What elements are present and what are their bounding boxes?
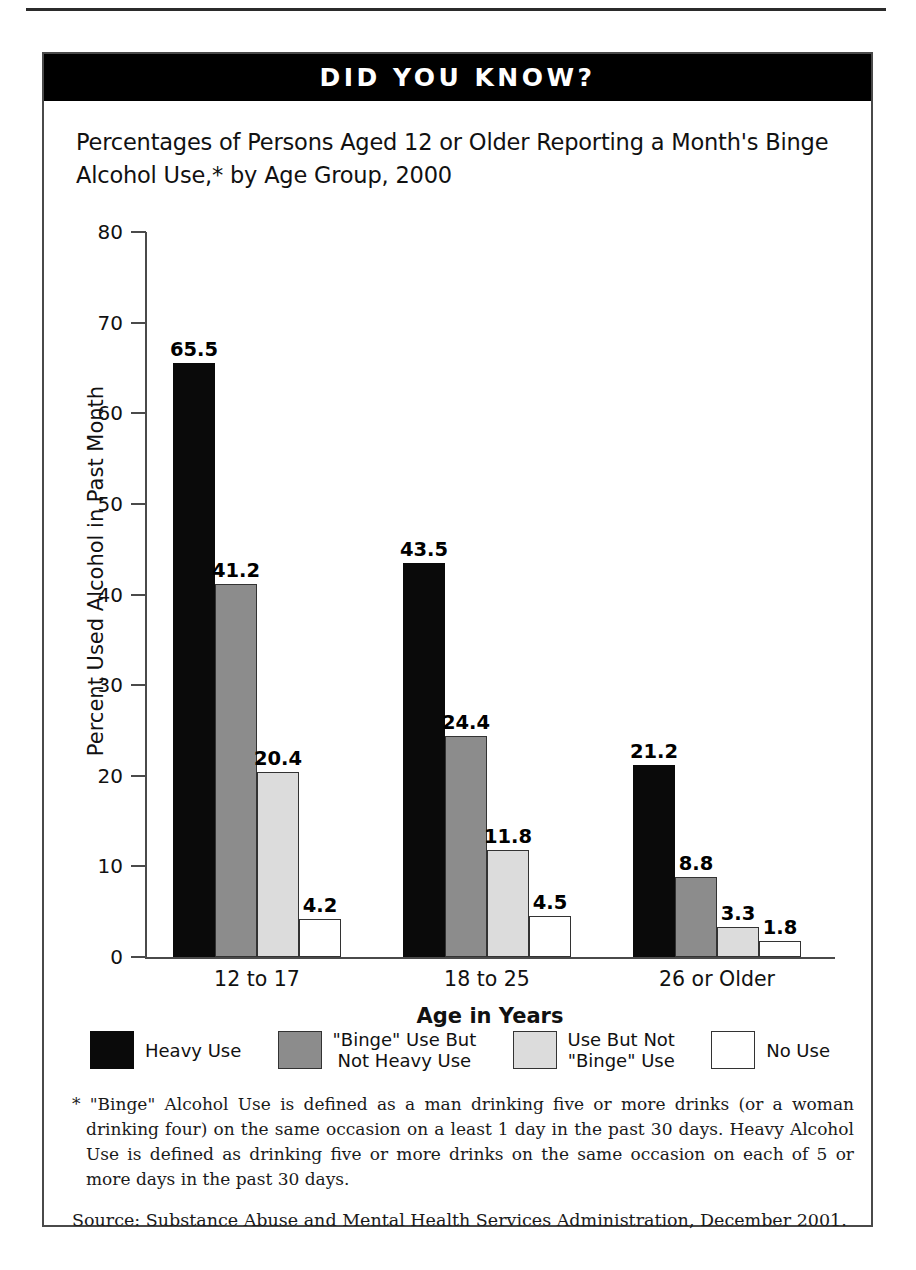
bar-value-label: 4.2: [303, 894, 338, 917]
bar-value-label: 11.8: [484, 825, 532, 848]
notes-block: * "Binge" Alcohol Use is defined as a ma…: [64, 1092, 854, 1232]
y-axis-tick-label: 70: [98, 311, 123, 335]
y-axis-tick: [131, 503, 146, 505]
bar-value-label: 24.4: [442, 711, 490, 734]
y-axis-tick: [131, 956, 146, 958]
y-axis-tick: [131, 684, 146, 686]
y-axis-tick-label: 80: [98, 220, 123, 244]
legend-label: "Binge" Use But Not Heavy Use: [333, 1029, 477, 1071]
legend-swatch: [711, 1031, 755, 1069]
bar-value-label: 41.2: [212, 559, 260, 582]
figure-box: DID YOU KNOW? Percentages of Persons Age…: [42, 52, 873, 1227]
plot-area: 0102030405060708065.541.220.44.212 to 17…: [145, 232, 835, 957]
bar: 11.8: [487, 850, 529, 957]
y-axis-tick: [131, 775, 146, 777]
banner-title: DID YOU KNOW?: [319, 63, 595, 92]
footnote-text: * "Binge" Alcohol Use is defined as a ma…: [64, 1092, 854, 1192]
bar: 41.2: [215, 584, 257, 957]
y-axis-tick-label: 40: [98, 583, 123, 607]
bar: 3.3: [717, 927, 759, 957]
legend-item: Heavy Use: [90, 1031, 241, 1069]
x-axis-category-label: 26 or Older: [659, 967, 775, 991]
page-top-rule: [26, 8, 886, 11]
legend-swatch: [90, 1031, 134, 1069]
y-axis-tick-label: 50: [98, 492, 123, 516]
bar: 1.8: [759, 941, 801, 957]
x-axis-category-label: 12 to 17: [214, 967, 300, 991]
y-axis-tick-label: 10: [98, 854, 123, 878]
bar-value-label: 43.5: [400, 538, 448, 561]
y-axis-title: Percent Used Alcohol in Past Month: [84, 311, 108, 831]
bar: 24.4: [445, 736, 487, 957]
y-axis-tick: [131, 322, 146, 324]
legend-label: Use But Not "Binge" Use: [568, 1029, 675, 1071]
legend-item: No Use: [711, 1031, 830, 1069]
bar-value-label: 1.8: [763, 916, 798, 939]
x-axis-category-label: 18 to 25: [444, 967, 530, 991]
y-axis-tick: [131, 231, 146, 233]
legend-item: Use But Not "Binge" Use: [513, 1029, 675, 1071]
y-axis-tick-label: 20: [98, 764, 123, 788]
legend-label: Heavy Use: [145, 1040, 241, 1061]
y-axis-tick-label: 30: [98, 673, 123, 697]
bar: 8.8: [675, 877, 717, 957]
bar: 21.2: [633, 765, 675, 957]
bar: 4.2: [299, 919, 341, 957]
bar-value-label: 3.3: [721, 902, 756, 925]
x-axis-title: Age in Years: [145, 1004, 835, 1028]
bar: 65.5: [173, 363, 215, 957]
bar-value-label: 20.4: [254, 747, 302, 770]
bar: 20.4: [257, 772, 299, 957]
bar-value-label: 65.5: [170, 338, 218, 361]
bar-value-label: 8.8: [679, 852, 714, 875]
bar-value-label: 21.2: [630, 740, 678, 763]
legend-label: No Use: [766, 1040, 830, 1061]
bar: 4.5: [529, 916, 571, 957]
bar: 43.5: [403, 563, 445, 957]
chart-legend: Heavy Use"Binge" Use But Not Heavy UseUs…: [90, 1029, 830, 1071]
chart-title: Percentages of Persons Aged 12 or Older …: [76, 126, 836, 192]
source-text: Source: Substance Abuse and Mental Healt…: [64, 1208, 854, 1232]
legend-item: "Binge" Use But Not Heavy Use: [278, 1029, 477, 1071]
y-axis-tick-label: 60: [98, 401, 123, 425]
did-you-know-banner: DID YOU KNOW?: [44, 54, 871, 101]
bar-value-label: 4.5: [533, 891, 568, 914]
x-axis-line: [145, 957, 835, 959]
legend-swatch: [278, 1031, 322, 1069]
y-axis-tick-label: 0: [110, 945, 123, 969]
legend-swatch: [513, 1031, 557, 1069]
chart-plot-region: Percent Used Alcohol in Past Month 01020…: [44, 214, 871, 1014]
y-axis-tick: [131, 865, 146, 867]
y-axis-tick: [131, 412, 146, 414]
y-axis-tick: [131, 594, 146, 596]
